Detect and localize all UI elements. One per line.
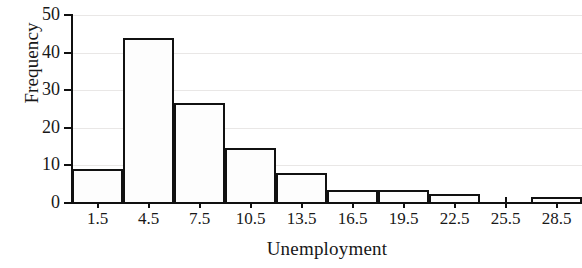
y-axis-line: [71, 14, 73, 204]
y-axis-tick-label: 0: [18, 193, 60, 211]
x-axis-tick-label: 22.5: [427, 209, 483, 228]
plot-area: [72, 15, 582, 203]
histogram-bar: [72, 169, 123, 203]
histogram-bar: [276, 173, 327, 203]
y-axis-tick-label: 10: [18, 155, 60, 173]
histogram-bar: [123, 38, 174, 203]
x-axis-title: Unemployment: [72, 238, 582, 260]
x-axis-tick-label: 1.5: [70, 209, 126, 228]
histogram-bar: [225, 148, 276, 203]
x-axis-tick-label: 7.5: [172, 209, 228, 228]
y-axis-tick-label: 40: [18, 43, 60, 61]
x-axis-tick-label: 25.5: [478, 209, 534, 228]
x-axis-tick-label: 13.5: [274, 209, 330, 228]
x-axis-tick-label: 16.5: [325, 209, 381, 228]
histogram-figure: Frequency Unemployment 01020304050 1.54.…: [0, 0, 582, 268]
x-axis-line: [71, 202, 582, 204]
x-axis-tick-label: 10.5: [223, 209, 279, 228]
x-axis-tick-label: 4.5: [121, 209, 177, 228]
histogram-bar: [378, 190, 429, 203]
histogram-bar: [174, 103, 225, 203]
x-axis-tick-label: 19.5: [376, 209, 432, 228]
y-axis-tick-label: 20: [18, 118, 60, 136]
x-axis-tick-label: 28.5: [529, 209, 582, 228]
histogram-bar: [327, 190, 378, 203]
y-axis-tick-label: 30: [18, 80, 60, 98]
y-axis-tick-label: 50: [18, 5, 60, 23]
